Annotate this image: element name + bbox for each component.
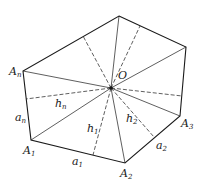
label-An: An [9,66,21,79]
label-an: an [15,112,26,125]
diagram-svg [0,0,205,190]
label-O: O [118,70,127,81]
label-A2: A2 [120,168,132,181]
height-lines [26,26,182,155]
label-a2: a2 [156,140,167,153]
label-A1: A1 [23,145,35,158]
label-hn: hn [55,98,67,111]
label-h2: h2 [126,113,138,126]
label-a1: a1 [72,156,83,169]
label-A3: A3 [181,118,193,131]
label-h1: h1 [87,123,99,136]
polygon-diagram: An O hn an h1 h2 A3 a2 A1 a1 A2 [0,0,205,190]
center-point [109,86,113,90]
